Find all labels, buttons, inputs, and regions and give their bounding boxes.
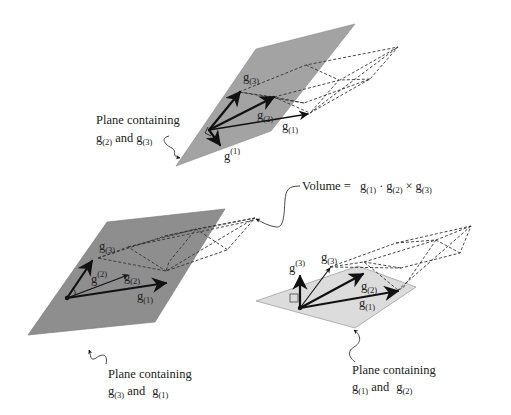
caption-bottom-right-line2: g(1)andg(2): [352, 380, 413, 396]
leader-top: [164, 136, 180, 158]
label-g1: g(1): [282, 119, 298, 135]
label-g-sup3: g(3): [289, 258, 305, 275]
caption-top-line1: Plane containing: [96, 113, 180, 127]
reciprocal-basis-diagram: g(3) g(2) g(1) g(1) Plane containing g(2…: [0, 0, 511, 415]
volume-formula: Volume = g(1)·g(2)×g(3): [256, 179, 432, 227]
label-g3: g(3): [321, 250, 337, 266]
origin-point: [298, 306, 302, 310]
label-g-sup1: g(1): [224, 146, 240, 163]
leader-bottom-left: [89, 350, 107, 364]
panel-bottom-left: g(3) g(2) g(2) g(1) Plane containing g(3…: [28, 209, 255, 400]
caption-bottom-left-line1: Plane containing: [108, 367, 192, 381]
caption-bottom-left-line2: g(3)andg(1): [108, 384, 169, 400]
leader-bottom-right: [349, 330, 359, 362]
leader-formula: [256, 186, 300, 227]
panel-bottom-right: g(3) g(3) g(2) g(1) Plane containing g(1…: [256, 226, 471, 396]
panel-top: g(3) g(2) g(1) g(1) Plane containing g(2…: [96, 24, 398, 166]
caption-top-line2: g(2)andg(3): [96, 131, 153, 147]
origin-point: [65, 296, 69, 300]
plane-g1-g2: [256, 266, 416, 328]
formula-text: Volume = g(1)·g(2)×g(3): [302, 179, 432, 195]
caption-bottom-right-line1: Plane containing: [352, 363, 436, 377]
plane-g2-g3: [176, 24, 355, 166]
